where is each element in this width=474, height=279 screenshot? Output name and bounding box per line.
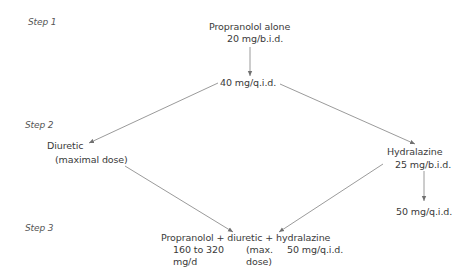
node-hydralazine-50mg: 50 mg/q.i.d. <box>396 206 452 217</box>
combo-diuretic-dose-2: dose) <box>246 256 272 267</box>
combo-propranolol-dose-2: mg/d <box>173 256 197 267</box>
combo-hydralazine-dose: 50 mg/q.i.d. <box>287 244 343 255</box>
node-start-title: Propranolol alone <box>209 21 290 32</box>
arrow-escalate-to-hydralazine <box>280 84 415 144</box>
step-2-label: Step 2 <box>25 120 53 131</box>
node-hydralazine-dose: 25 mg/b.i.d. <box>395 159 451 170</box>
step-3-label: Step 3 <box>25 223 53 234</box>
combo-diuretic-dose-1: (max. <box>246 244 273 255</box>
arrow-escalate-to-diuretic <box>89 83 218 143</box>
arrow-diuretic-to-combo <box>125 166 233 232</box>
combo-title: Propranolol + diuretic + hydralazine <box>161 232 330 243</box>
node-propranolol-40mg: 40 mg/q.i.d. <box>220 77 276 88</box>
node-start-dose: 20 mg/b.i.d. <box>227 33 283 44</box>
combo-propranolol-dose-1: 160 to 320 <box>173 244 224 255</box>
node-diuretic-title: Diuretic <box>47 140 83 151</box>
node-diuretic-dose: (maximal dose) <box>55 154 128 165</box>
step-1-label: Step 1 <box>28 17 56 28</box>
arrow-hydralazine-to-combo <box>279 164 383 232</box>
node-hydralazine-title: Hydralazine <box>387 146 442 157</box>
